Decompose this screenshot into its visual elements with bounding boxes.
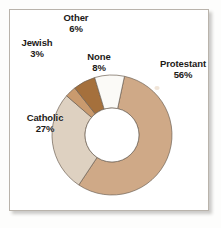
slice-label-other: Other 6% bbox=[48, 13, 104, 34]
slice-label-jewish-percent: 3% bbox=[10, 49, 64, 60]
slice-label-protestant-percent: 56% bbox=[148, 70, 218, 81]
highlight-speck bbox=[154, 86, 159, 90]
slice-label-none: None 8% bbox=[78, 52, 120, 73]
slice-label-jewish: Jewish 3% bbox=[10, 38, 64, 59]
donut-center-hole bbox=[85, 108, 139, 162]
slice-label-catholic: Catholic 27% bbox=[16, 113, 74, 134]
slice-label-none-percent: 8% bbox=[78, 63, 120, 74]
slice-label-other-percent: 6% bbox=[48, 24, 104, 35]
slice-label-catholic-percent: 27% bbox=[16, 124, 74, 135]
slice-label-protestant: Protestant 56% bbox=[148, 59, 218, 80]
chart-figure: Other 6% Jewish 3% None 8% Protestant 56… bbox=[0, 0, 221, 228]
